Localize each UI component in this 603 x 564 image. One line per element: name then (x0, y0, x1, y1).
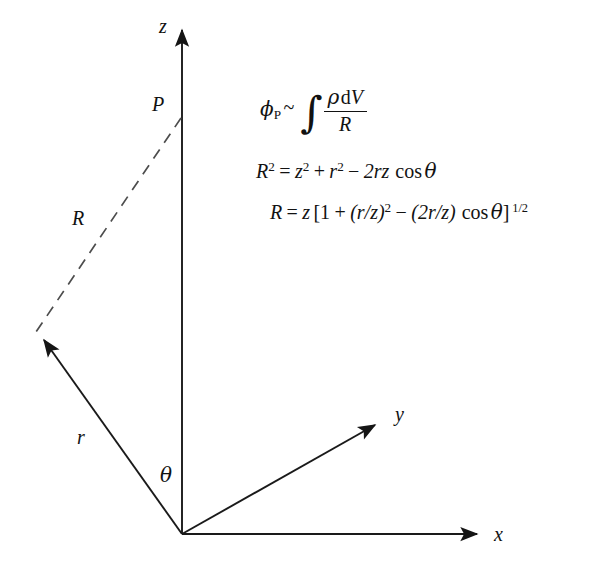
figure-canvas: z y x P R r θ ϕP~∫ρ dVR R2=z2+r2−2rzcosθ… (0, 0, 603, 564)
equation-potential-integral: ϕP~∫ρ dVR (260, 86, 370, 136)
eq3-group1: (r/z) (350, 201, 384, 223)
eq3-group2: (2r/z) (411, 201, 455, 223)
eq2-equals: = (275, 160, 295, 182)
eq3-close-bracket: ] (503, 201, 510, 223)
eq3-cos: cos (456, 201, 491, 223)
fraction-rho-dv-over-r: ρ dVR (323, 86, 368, 136)
equation-R-expansion: R=z [1+(r/z)2−(2r/z)cosθ]1/2 (270, 201, 528, 222)
eq2-term1: z (295, 160, 303, 182)
integral-group: ∫ρ dVR (297, 86, 370, 136)
vector-diagram (0, 0, 603, 564)
rho-symbol: ρ (327, 85, 339, 109)
angle-theta-label: θ (160, 465, 172, 485)
phi-symbol: ϕ (260, 97, 274, 121)
eq2-theta: θ (424, 159, 436, 183)
eq3-minus: − (391, 201, 411, 223)
phi-subscript-p: P (274, 107, 281, 122)
eq2-lhs-exponent: 2 (268, 159, 275, 174)
R-dashed-segment (36, 118, 181, 332)
eq3-lhs-R: R (270, 201, 282, 223)
y-axis-line (182, 425, 375, 534)
eq3-theta: θ (491, 200, 503, 224)
eq2-minus: − (344, 160, 364, 182)
point-p-label: P (152, 94, 164, 114)
segment-R-label: R (72, 208, 84, 228)
eq2-term3-coeff: 2rz (364, 160, 390, 182)
eq2-lhs-R: R (256, 160, 268, 182)
z-axis-label: z (159, 16, 167, 36)
equation-law-of-cosines: R2=z2+r2−2rzcosθ (256, 160, 436, 181)
eq3-plus: + (330, 201, 350, 223)
eq2-term2-exponent: 2 (337, 159, 344, 174)
eq3-equals: = (282, 201, 302, 223)
eq3-one: 1 (320, 201, 330, 223)
vector-r-label: r (77, 427, 85, 447)
eq2-term2: r (329, 160, 337, 182)
r-vector-line (44, 340, 182, 534)
eq3-exponent-half: 1/2 (510, 201, 529, 215)
similar-to-operator: ~ (281, 96, 297, 118)
y-axis-label: y (395, 404, 404, 424)
equation-block: ϕP~∫ρ dVR R2=z2+r2−2rzcosθ R=z [1+(r/z)2… (252, 86, 597, 241)
differential-volume: d (341, 86, 351, 108)
volume-symbol: V (351, 86, 363, 108)
fraction-denominator: R (324, 112, 367, 137)
eq2-cos: cos (389, 160, 424, 182)
eq3-factor-z: z (302, 201, 310, 223)
integral-icon: ∫ (300, 99, 322, 126)
eq2-plus: + (309, 160, 329, 182)
x-axis-label: x (494, 524, 503, 544)
fraction-numerator: ρ dV (324, 86, 367, 112)
